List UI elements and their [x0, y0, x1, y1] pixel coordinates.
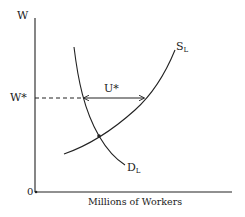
supply-label-main: S: [176, 40, 184, 53]
ustar-label: U*: [104, 83, 119, 94]
x-axis-label: Millions of Workers: [88, 197, 182, 207]
origin-label: 0: [27, 187, 33, 197]
labor-market-chart: [0, 0, 245, 217]
demand-label-main: D: [127, 161, 136, 174]
demand-label-sub: L: [136, 167, 141, 175]
origin-dot: [35, 191, 38, 194]
equilibrium-point: [97, 134, 101, 138]
supply-curve: [64, 50, 175, 154]
supply-label-sub: L: [184, 46, 189, 54]
wstar-label: W*: [10, 92, 27, 103]
supply-label: SL: [176, 41, 188, 54]
y-axis-label: W: [17, 10, 28, 21]
demand-label: DL: [127, 162, 140, 175]
